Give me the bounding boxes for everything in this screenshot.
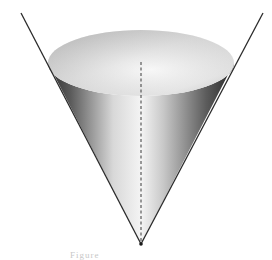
apex-point: [139, 242, 143, 246]
figure-caption: Figure: [70, 250, 210, 260]
